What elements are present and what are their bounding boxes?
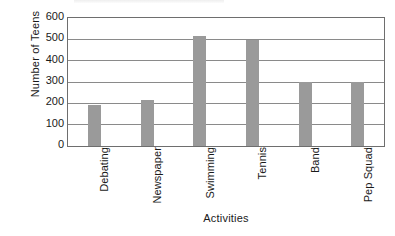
bar xyxy=(88,105,101,146)
cropped-title-remnant xyxy=(74,0,224,3)
x-axis-tick-label-wrapper: Band xyxy=(309,147,321,177)
x-axis-tick-label: Tennis xyxy=(256,147,268,183)
gridline xyxy=(68,103,384,104)
bar xyxy=(246,40,259,146)
bar xyxy=(193,36,206,147)
y-axis-tick-label: 300 xyxy=(24,75,64,86)
y-axis-tick-label: 500 xyxy=(24,32,64,43)
plot-area xyxy=(67,17,385,147)
x-axis-tick-label: Newspaper xyxy=(151,147,163,208)
x-axis-tick-labels: DebatingNewspaperSwimmingTennisBandPep S… xyxy=(67,147,385,209)
x-axis-tick-label: Pep Squad xyxy=(362,147,374,206)
x-axis-tick-label: Debating xyxy=(98,147,110,196)
x-axis-tick-label: Band xyxy=(309,147,321,177)
x-axis-tick-label-wrapper: Pep Squad xyxy=(362,147,374,206)
bar xyxy=(141,100,154,146)
gridline xyxy=(68,60,384,61)
y-axis-tick-label: 200 xyxy=(24,96,64,107)
x-axis-tick-label-wrapper: Debating xyxy=(98,147,110,196)
y-axis-tick-labels: 0100200300400500600 xyxy=(22,0,64,236)
gridline xyxy=(68,82,384,83)
x-axis-tick-label: Swimming xyxy=(204,147,216,203)
gridline xyxy=(68,39,384,40)
bar xyxy=(351,82,364,146)
x-axis-title: Activities xyxy=(67,212,385,224)
y-axis-tick-label: 0 xyxy=(24,139,64,150)
x-axis-tick-label-wrapper: Swimming xyxy=(204,147,216,203)
y-axis-tick-label: 100 xyxy=(24,118,64,129)
y-axis-tick-label: 400 xyxy=(24,54,64,65)
x-axis-tick-label-wrapper: Newspaper xyxy=(151,147,163,208)
x-axis-tick-label-wrapper: Tennis xyxy=(256,147,268,183)
y-axis-tick-label: 600 xyxy=(24,11,64,22)
gridline xyxy=(68,124,384,125)
bar xyxy=(299,82,312,146)
bar-chart: Number of Teens 0100200300400500600 Deba… xyxy=(0,0,395,236)
